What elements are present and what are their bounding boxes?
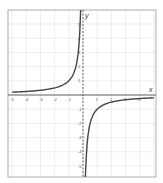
svg-text:1: 1 (96, 97, 99, 102)
svg-text:-4: -4 (25, 97, 29, 102)
svg-text:-1: -1 (67, 97, 71, 102)
x-axis-label: x (148, 86, 153, 93)
y-axis-label: y (84, 12, 89, 20)
grid (8, 10, 156, 177)
curve-left-branch (12, 10, 81, 92)
svg-text:-2: -2 (53, 97, 57, 102)
hyperbola-chart: -5-4-3-2-11234-5-4-3-2-112345 x y (0, 0, 163, 183)
svg-text:-5: -5 (11, 97, 15, 102)
svg-text:4: 4 (138, 97, 141, 102)
svg-text:-3: -3 (39, 97, 43, 102)
